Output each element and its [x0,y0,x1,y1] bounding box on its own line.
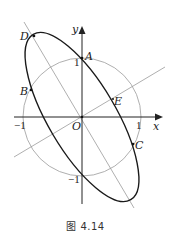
label-E: E [113,95,122,108]
point-C [132,143,135,146]
label-C: C [135,139,144,152]
point-B [30,89,33,92]
point-D [33,35,36,38]
label-D: D [19,30,29,43]
point-O [81,116,84,119]
tick-x-1: 1 [136,119,142,131]
label-B: B [19,85,28,98]
label-x: x [153,120,160,133]
tick-y-1: 1 [74,56,80,68]
label-A: A [84,50,93,63]
point-A [81,57,84,60]
figure-caption: 图 4.14 [0,218,171,233]
y-axis-arrow-icon [79,26,86,34]
tick-x-neg1: −1 [14,119,26,131]
tick-y-neg1: −1 [68,173,80,185]
label-y: y [71,23,79,36]
label-O: O [72,120,81,133]
figure-diagram: y x O A B C D E 1 −1 1 −1 [0,0,171,215]
